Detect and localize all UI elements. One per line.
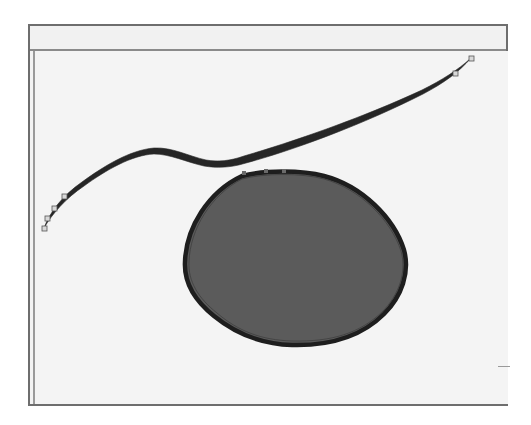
blob-node-handle[interactable] [264, 169, 268, 173]
control-point-handle[interactable] [52, 206, 57, 211]
window-toolbar [30, 26, 506, 51]
blob-fill[interactable] [185, 172, 406, 346]
drawing-canvas[interactable] [33, 51, 508, 404]
control-point-handle[interactable] [469, 56, 474, 61]
control-point-handle[interactable] [42, 226, 47, 231]
drawing-window [28, 24, 508, 406]
canvas-edge-tick [498, 366, 510, 367]
blob-node-handle[interactable] [242, 171, 246, 175]
control-point-handle[interactable] [62, 194, 67, 199]
control-point-handle[interactable] [453, 71, 458, 76]
blob-shape[interactable] [185, 169, 406, 345]
control-point-handle[interactable] [45, 216, 50, 221]
blob-node-handle[interactable] [282, 169, 286, 173]
canvas-vector-layer[interactable] [35, 51, 508, 404]
